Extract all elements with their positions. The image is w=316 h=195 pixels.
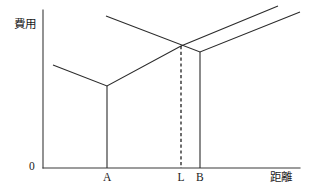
x-axis-label: 距離	[270, 172, 293, 184]
origin-label: 0	[29, 161, 35, 173]
cost-curve-from-b	[106, 12, 300, 52]
x-tick-label-b: B	[196, 172, 204, 184]
y-axis-label: 費用	[14, 19, 37, 31]
cost-curve-from-a	[53, 6, 278, 86]
x-tick-label-a: A	[103, 172, 111, 184]
x-tick-label-l: L	[178, 172, 185, 184]
cost-distance-figure: 費用 0 A L B 距離	[0, 0, 316, 195]
figure-canvas	[0, 0, 316, 195]
